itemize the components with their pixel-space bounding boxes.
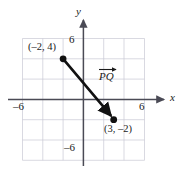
- coordinate-plane-svg: [0, 0, 185, 171]
- y-axis-label: y: [76, 6, 81, 17]
- point-p-label: (–2, 4): [28, 42, 56, 53]
- point-q-label: (3, –2): [104, 124, 132, 135]
- x-axis-label: x: [170, 92, 175, 103]
- x-tick-label-positive: 6: [139, 101, 145, 112]
- point-p-marker: [60, 55, 67, 62]
- vector-pq-label: PQ: [99, 71, 114, 82]
- y-tick-label-positive: 6: [69, 34, 75, 45]
- y-tick-label-negative: –6: [64, 142, 75, 153]
- vector-pq-figure: y x 6 –6 –6 6 (–2, 4) (3, –2) PQ: [0, 0, 185, 171]
- x-tick-label-negative: –6: [13, 101, 24, 112]
